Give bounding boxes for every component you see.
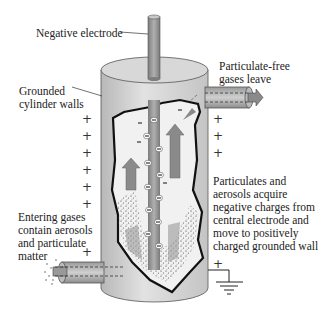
positive-charge: +	[213, 113, 223, 125]
ground-symbol	[208, 270, 243, 294]
positive-charge: +	[213, 130, 223, 142]
positive-charge: +	[82, 130, 92, 142]
positive-charge: +	[82, 181, 92, 193]
positive-charge: +	[82, 164, 92, 176]
label-particulates-line6: charged grounded wall	[213, 240, 318, 253]
positive-charge: +	[213, 258, 223, 270]
walls-leader-line	[72, 87, 102, 96]
label-particulates-line3: negative charges from	[213, 201, 315, 214]
label-negative-electrode: Negative electrode	[36, 27, 123, 40]
label-particulates-line2: aerosols acquire	[213, 188, 287, 201]
precipitator-diagram: + + + + + + + + + + + Negative electrode…	[0, 0, 336, 315]
negative-electrode	[148, 15, 160, 81]
label-entering-line4: matter	[18, 250, 47, 263]
positive-charge: +	[82, 147, 92, 159]
label-particulates-line1: Particulates and	[213, 175, 286, 188]
label-cylinder-walls-line2: cylinder walls	[19, 98, 84, 111]
positive-charge: +	[82, 113, 92, 125]
label-entering-line2: contain aerosols	[18, 224, 92, 237]
label-particulates-line4: central electrode and	[213, 214, 309, 227]
label-gases-leave-line1: Particulate-free	[219, 60, 290, 73]
positive-charge: +	[213, 147, 223, 159]
label-gases-leave-line2: gases leave	[219, 73, 271, 86]
label-particulates-line5: move to positively	[213, 227, 299, 240]
label-cylinder-walls-line1: Grounded	[19, 85, 65, 98]
positive-charge: +	[82, 198, 92, 210]
diagram-graphic	[0, 0, 336, 315]
label-entering-line3: and particulate	[18, 237, 86, 250]
label-entering-line1: Entering gases	[18, 211, 85, 224]
electrode-leader-line	[120, 32, 148, 34]
